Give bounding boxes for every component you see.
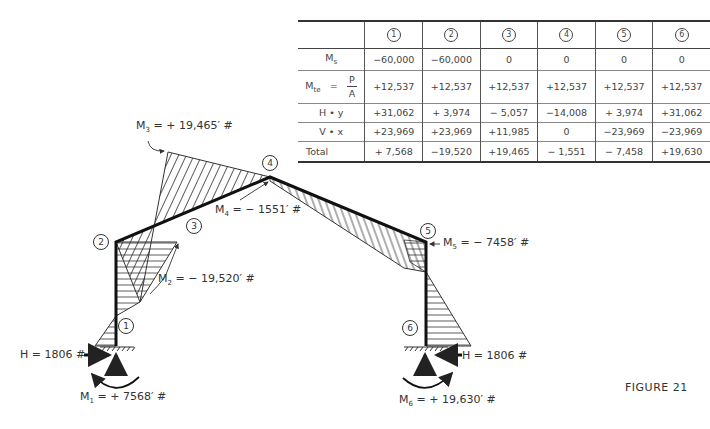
h-left-label: H = 1806 # — [20, 348, 85, 361]
m2-label: M2 = − 19,520′ # — [158, 272, 255, 287]
node-5-marker: 5 — [420, 223, 436, 239]
left-reaction-arrows — [84, 355, 139, 388]
m4-label: M4 = − 1551′ # — [215, 203, 301, 218]
table-header-node-5: 5 — [595, 21, 653, 48]
cell: −19,520 — [423, 141, 481, 162]
table-row-ms: Ms −60,000 −60,000 0 0 0 0 — [298, 48, 710, 70]
cell: +12,537 — [480, 70, 538, 103]
cell: +12,537 — [595, 70, 653, 103]
table-header-row: 1 2 3 4 5 6 — [298, 21, 710, 48]
right-column-moment-hatch — [426, 272, 471, 346]
table-header-node-3: 3 — [480, 21, 538, 48]
cell: − 5,057 — [480, 103, 538, 122]
node-4-marker: 4 — [262, 155, 278, 171]
cell: −23,969 — [595, 122, 653, 141]
table-header-node-4: 4 — [538, 21, 596, 48]
cell: 0 — [538, 122, 596, 141]
m5-label: M5 = − 7458′ # — [443, 236, 529, 251]
figure-caption: FIGURE 21 — [625, 381, 688, 394]
moment-summary-table: 1 2 3 4 5 6 Ms −60,000 −60,000 0 0 0 0 M… — [298, 20, 710, 163]
node-2-marker: 2 — [93, 234, 109, 250]
cell: +19,630 — [653, 141, 710, 162]
cell: +19,465 — [480, 141, 538, 162]
node-6-marker: 6 — [402, 320, 418, 336]
cell: +12,537 — [423, 70, 481, 103]
cell: −23,969 — [653, 122, 710, 141]
cell: −14,008 — [538, 103, 596, 122]
cell: +11,985 — [480, 122, 538, 141]
cell: +12,537 — [653, 70, 710, 103]
right-fixed-support — [404, 347, 448, 351]
table-header-node-2: 2 — [423, 21, 481, 48]
table-header-blank — [298, 21, 365, 48]
table-row-total: Total + 7,568 −19,520 +19,465 − 1,551 − … — [298, 141, 710, 162]
cell: +12,537 — [365, 70, 423, 103]
row-label-ms: Ms — [298, 48, 365, 70]
cell: 0 — [480, 48, 538, 70]
cell: +31,062 — [365, 103, 423, 122]
figure-21: 1 2 3 4 5 6 M3 = + 19,465′ # M4 = − 1551… — [0, 0, 710, 429]
cell: +23,969 — [365, 122, 423, 141]
table-header-node-1: 1 — [365, 21, 423, 48]
right-reaction-arrows — [403, 355, 462, 388]
cell: +23,969 — [423, 122, 481, 141]
node-3-marker: 3 — [186, 218, 202, 234]
left-fixed-support — [100, 347, 135, 351]
cell: 0 — [595, 48, 653, 70]
cell: +31,062 — [653, 103, 710, 122]
m1-label: M1 = + 7568′ # — [80, 390, 166, 405]
p-over-a-fraction: PA — [347, 73, 358, 100]
cell: −60,000 — [365, 48, 423, 70]
cell: + 3,974 — [595, 103, 653, 122]
cell: −60,000 — [423, 48, 481, 70]
table-row-vx: V • x +23,969 +23,969 +11,985 0 −23,969 … — [298, 122, 710, 141]
table-row-hy: H • y +31,062 + 3,974 − 5,057 −14,008 + … — [298, 103, 710, 122]
table-header-node-6: 6 — [653, 21, 710, 48]
m3-label: M3 = + 19,465′ # — [136, 119, 233, 134]
cell: + 3,974 — [423, 103, 481, 122]
row-label-total: Total — [298, 141, 365, 162]
row-label-hy: H • y — [298, 103, 365, 122]
cell: − 7,458 — [595, 141, 653, 162]
cell: 0 — [653, 48, 710, 70]
cell: +12,537 — [538, 70, 596, 103]
row-label-mte: Mte = PA — [298, 70, 365, 103]
right-rafter-moment-hatch — [270, 177, 426, 272]
cell: − 1,551 — [538, 141, 596, 162]
cell: + 7,568 — [365, 141, 423, 162]
cell: 0 — [538, 48, 596, 70]
table-row-mte: Mte = PA +12,537 +12,537 +12,537 +12,537… — [298, 70, 710, 103]
row-label-vx: V • x — [298, 122, 365, 141]
h-right-label: H = 1806 # — [462, 349, 527, 362]
node-1-marker: 1 — [118, 318, 134, 334]
m6-label: M6 = + 19,630′ # — [399, 393, 496, 408]
